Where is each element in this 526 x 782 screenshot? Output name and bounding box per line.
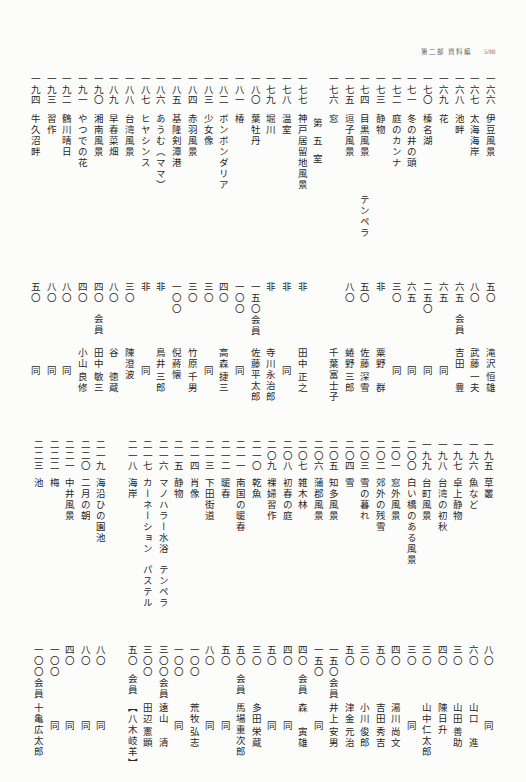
entry-artist: 津金 元治	[343, 703, 355, 749]
entry-title: 静物	[376, 114, 386, 136]
entry-title: 早春菜畑	[109, 114, 119, 158]
entry-title: ヒヤシンス	[140, 114, 150, 169]
catalog-entry: 二一一 南国の暖春 五〇 会員 馬場重次郎	[233, 440, 249, 760]
price-block: 一〇〇	[234, 282, 244, 315]
entry-title: 雪	[344, 478, 354, 489]
entry-price: 一〇〇	[189, 645, 199, 678]
entry-title: 白い橋のある風景	[406, 478, 416, 566]
running-header: 第二部 資料編 598	[421, 46, 496, 56]
artist-family-name: 山中仁太郎	[422, 703, 432, 758]
price-block: 三〇	[422, 645, 432, 674]
artist-family-name: 同	[49, 721, 59, 732]
entry-title: 温室	[281, 114, 291, 136]
artist-family-name: 佐藤平太郎	[250, 348, 260, 403]
price-block: 一〇〇	[172, 282, 182, 315]
artist-family-name: 鳥井	[156, 348, 166, 370]
entry-artist: 同	[172, 703, 184, 749]
entry-number: 一七九	[266, 74, 276, 106]
entry-price: 六五	[407, 282, 417, 314]
entry-artist: 多田 栄蔵	[250, 703, 262, 749]
artist-given-name: 徳蔵	[109, 372, 119, 394]
artist-given-name: 安男	[329, 727, 339, 749]
catalog-entry: 一八〇 葉牡丹 一五〇 会員 佐藤平太郎	[247, 74, 263, 404]
price-block: 三〇	[391, 282, 401, 314]
entry-artist: 田中 正之	[296, 348, 308, 394]
entry-title: あうむ（ママ）	[156, 114, 166, 191]
artist-family-name: 井上	[329, 703, 339, 725]
entry-artist: 佐藤平太郎	[249, 348, 261, 394]
price-block: 非	[297, 282, 307, 314]
entry-price: 六五	[454, 282, 464, 314]
entry-number: 一七三	[376, 74, 386, 106]
catalog-entry: 二〇五 知多風景 一五〇 会員 井上 安男	[326, 440, 342, 760]
entry-title: 暖春	[220, 478, 230, 500]
artist-given-name: 深雪	[360, 372, 370, 394]
member-mark: 会員	[127, 674, 137, 696]
entry-title: 郊外の残雪	[375, 478, 385, 533]
catalog-entry: 二〇一 窓外風景 四〇 湯川 尚文	[388, 440, 404, 760]
entry-price: 八〇	[96, 645, 106, 674]
entry-number: 二〇六	[313, 440, 323, 472]
artist-given-name: 千男	[187, 372, 197, 394]
member-mark: 会員	[454, 314, 464, 336]
entry-number: 二一七	[143, 440, 153, 472]
price-block: 四〇	[65, 645, 75, 674]
entry-artist: 寺川永治郎	[265, 348, 277, 394]
artist-family-name: 同	[140, 366, 150, 377]
artist-family-name: 滝沢	[485, 348, 495, 370]
artist-family-name: 竹原	[187, 348, 197, 370]
price-block: 八〇	[470, 282, 480, 314]
artist-family-name: 馬場重次郎	[236, 703, 246, 758]
entry-number: 一七四	[360, 74, 370, 106]
entry-title: 鶴川晴日	[62, 114, 72, 158]
entry-title: 知多風景	[329, 478, 339, 522]
entry-title: 二月の朝	[80, 478, 90, 522]
entry-number: 一八三	[203, 74, 213, 106]
entry-number: 二一九	[96, 440, 106, 472]
entry-artist: 山口 進	[467, 703, 479, 749]
entry-artist: 山中仁太郎	[420, 703, 432, 749]
entry-medium: テンペラ	[360, 195, 370, 239]
catalog-entry: 一八八 台湾風景 三〇 陳澄波	[122, 74, 138, 404]
entry-title: 赤羽風景	[187, 114, 197, 158]
catalog-entry: 二〇四 雪 五〇 津金 元治	[341, 440, 357, 760]
entry-price: 二五〇	[423, 282, 433, 315]
price-block: 三〇	[187, 282, 197, 314]
artist-given-name: 捷三	[219, 372, 229, 394]
entry-number: 一八八	[125, 74, 135, 106]
artist-family-name: 陳澄波	[125, 348, 135, 381]
artist-family-name: 同	[220, 721, 230, 732]
catalog-entry: 一八六 あうむ（ママ） 非 鳥井 三郎	[153, 74, 169, 404]
entry-price: 八〇	[80, 645, 90, 674]
artist-family-name: 【八木	[127, 703, 137, 736]
entry-title: 神戸居留地風景	[297, 114, 307, 191]
artist-given-name: 三郎	[344, 372, 354, 394]
entry-artist: 馬場重次郎	[234, 703, 246, 749]
price-block: 五〇	[30, 282, 40, 314]
entry-medium: パステル	[143, 565, 153, 609]
catalog-entry: 一九五 草叢 八〇 同	[481, 440, 497, 760]
artist-given-name: 俊郎	[360, 727, 370, 749]
entry-number: 二二〇	[80, 440, 90, 472]
entry-artist: 荒牧 弘志	[188, 703, 200, 749]
entry-artist: 同	[406, 348, 418, 394]
entry-title: 池畔	[454, 114, 464, 136]
artist-family-name: 田中	[297, 348, 307, 370]
entry-price: 三〇	[422, 645, 432, 674]
entry-price: 三〇	[203, 282, 213, 314]
artist-family-name: 田中	[93, 348, 103, 370]
catalog-entry: 二一八 海岸 五〇 会員 【八木 岐羊】	[124, 440, 140, 760]
artist-given-name: 恒雄	[485, 372, 495, 394]
entry-artist: 倪蔣懐	[170, 348, 182, 394]
entry-artist: 田辺 憲顕	[141, 703, 153, 749]
entry-title: 台町風景	[422, 478, 432, 522]
artist-family-name: 高森	[219, 348, 229, 370]
entry-price: 八〇	[205, 645, 215, 674]
entry-number: 二一五	[174, 440, 184, 472]
entry-title: 初春の庭	[282, 478, 292, 522]
price-block: 三〇〇	[143, 645, 153, 678]
entry-title: 伊豆風景	[485, 114, 495, 158]
entry-price: 五〇	[360, 282, 370, 314]
price-block: 非	[376, 282, 386, 314]
entry-price: 三〇	[453, 645, 463, 674]
